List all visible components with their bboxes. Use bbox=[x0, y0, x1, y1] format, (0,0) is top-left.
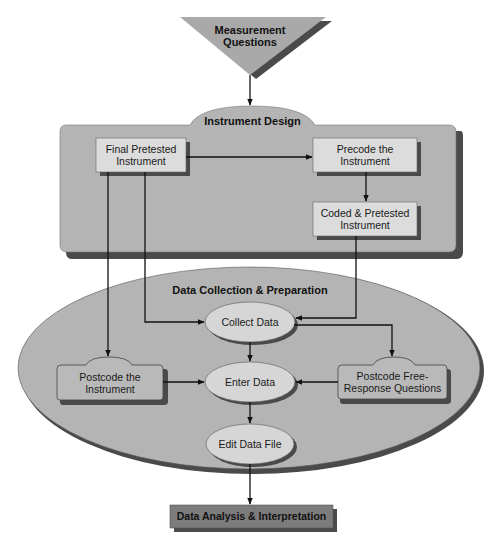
edit-data-file-label: Edit Data File bbox=[205, 438, 295, 450]
postcode-free-line2: Response Questions bbox=[338, 382, 447, 394]
precode-line1: Precode the bbox=[313, 143, 417, 155]
postcode-free-line1: Postcode Free- bbox=[338, 370, 447, 382]
postcode-free-response-label: Postcode Free- Response Questions bbox=[338, 370, 447, 394]
measurement-questions-line1: Measurement bbox=[200, 24, 300, 36]
precode-line2: Instrument bbox=[313, 155, 417, 167]
flowchart-canvas bbox=[0, 0, 491, 542]
coded-pretested-line2: Instrument bbox=[313, 219, 417, 231]
coded-pretested-line1: Coded & Pretested bbox=[313, 207, 417, 219]
collect-data-label: Collect Data bbox=[205, 316, 295, 328]
data-analysis-label: Data Analysis & Interpretation bbox=[170, 510, 333, 522]
precode-label: Precode the Instrument bbox=[313, 143, 417, 167]
postcode-instrument-line2: Instrument bbox=[57, 383, 163, 395]
final-pretested-label: Final Pretested Instrument bbox=[96, 143, 186, 167]
coded-pretested-label: Coded & Pretested Instrument bbox=[313, 207, 417, 231]
final-pretested-line1: Final Pretested bbox=[96, 143, 186, 155]
postcode-instrument-line1: Postcode the bbox=[57, 371, 163, 383]
instrument-design-title: Instrument Design bbox=[190, 115, 315, 127]
data-collection-title: Data Collection & Preparation bbox=[160, 284, 340, 296]
measurement-questions-label: Measurement Questions bbox=[200, 24, 300, 48]
final-pretested-line2: Instrument bbox=[96, 155, 186, 167]
postcode-instrument-label: Postcode the Instrument bbox=[57, 371, 163, 395]
measurement-questions-line2: Questions bbox=[200, 36, 300, 48]
enter-data-label: Enter Data bbox=[205, 376, 295, 388]
